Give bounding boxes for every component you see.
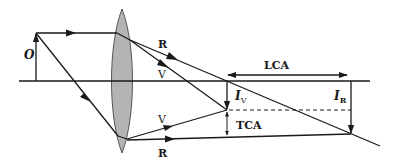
violet-ray-top-label: V (157, 68, 167, 81)
red-image-label-sub: R (340, 95, 347, 105)
ray-arrow-icon (66, 30, 76, 37)
violet-ray-bottom-label: V (157, 113, 167, 126)
chromatic-aberration-diagram: O R V V R IV IR LCA TCA (0, 0, 399, 162)
ray-arrow-icon (166, 52, 178, 60)
violet-image-label: IV (234, 89, 247, 105)
violet-ray-bottom (127, 110, 227, 139)
red-ray-bottom (127, 134, 351, 140)
tca-label: TCA (236, 119, 262, 132)
red-image-label: IR (333, 89, 347, 105)
incident-ray-bottom (36, 33, 118, 136)
violet-image-label-sub: V (240, 96, 247, 105)
red-ray-bottom-label: R (158, 147, 168, 160)
object-label: O (24, 48, 35, 62)
red-ray-top-label: R (158, 38, 168, 51)
lca-label: LCA (264, 59, 289, 72)
ray-arrow-icon (165, 136, 175, 143)
